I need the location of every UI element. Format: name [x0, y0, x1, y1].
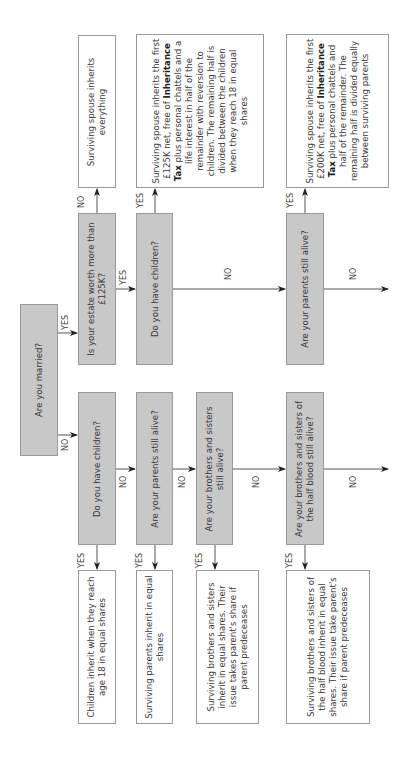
half-blood-result: Surviving brothers and sisters of the ha… [286, 570, 370, 724]
label-married-parents-yes: YES [287, 193, 295, 208]
single-children-question: Do you have children? [78, 392, 116, 545]
estate-question-text: Is your estate worth more than £125K? [86, 219, 108, 359]
label-married-parents-no: NO [350, 268, 358, 280]
single-children-question-text: Do you have children? [92, 399, 103, 539]
siblings-question: Are your brothers and sisters still aliv… [196, 392, 233, 545]
spouse-children-text: Surviving spouse inherits the first £125… [151, 38, 250, 184]
married-question: Are you married? [20, 304, 58, 456]
siblings-question-text: Are your brothers and sisters still aliv… [204, 399, 226, 539]
label-half-blood-yes: YES [286, 553, 294, 568]
married-parents-question-text: Are your parents still alive? [300, 219, 311, 359]
label-parents-yes: YES [136, 553, 144, 568]
spouse-inherits-all-text: Surviving spouse inherits everything [86, 42, 108, 182]
spouse-parents-result: Surviving spouse inherits the first £200… [286, 34, 389, 188]
children-result-text: Children inherit when they reach age 18 … [86, 574, 108, 720]
estate-question: Is your estate worth more than £125K? [78, 213, 116, 365]
siblings-result: Surviving brothers and sisters inherit i… [196, 570, 259, 724]
half-blood-question: Are your brothers and sisters of the hal… [286, 392, 324, 545]
label-estate-no: NO [78, 196, 86, 208]
married-children-question-text: Do you have children? [149, 219, 160, 359]
label-single-children-no: NO [120, 476, 128, 488]
single-parents-question: Are your parents still alive? [136, 392, 173, 545]
single-parents-question-text: Are your parents still alive? [149, 399, 160, 539]
half-blood-question-text: Are your brothers and sisters of the hal… [294, 396, 316, 541]
label-married-yes: YES [62, 315, 70, 330]
label-half-blood-no: NO [350, 476, 358, 488]
label-siblings-yes: YES [196, 553, 204, 568]
label-siblings-no: NO [253, 476, 261, 488]
parents-result-text: Surviving parents inherit in equal share… [144, 574, 166, 720]
label-married-no: NO [62, 439, 70, 451]
married-question-text: Are you married? [34, 310, 45, 450]
spouse-children-result: Surviving spouse inherits the first £125… [136, 34, 264, 188]
half-blood-result-text: Surviving brothers and sisters of the ha… [306, 574, 350, 720]
label-estate-yes: YES [120, 270, 128, 285]
label-married-children-yes: YES [137, 193, 145, 208]
spouse-inherits-all-result: Surviving spouse inherits everything [78, 35, 116, 188]
married-children-question: Do you have children? [136, 213, 173, 365]
children-result: Children inherit when they reach age 18 … [78, 570, 116, 724]
siblings-result-text: Surviving brothers and sisters inherit i… [206, 574, 250, 720]
label-married-children-no: NO [225, 268, 233, 280]
label-single-parents-no: NO [179, 476, 187, 488]
married-parents-question: Are your parents still alive? [286, 213, 324, 365]
label-children-yes: YES [78, 553, 86, 568]
spouse-parents-text: Surviving spouse inherits the first £200… [305, 38, 371, 184]
parents-result: Surviving parents inherit in equal share… [136, 570, 173, 724]
